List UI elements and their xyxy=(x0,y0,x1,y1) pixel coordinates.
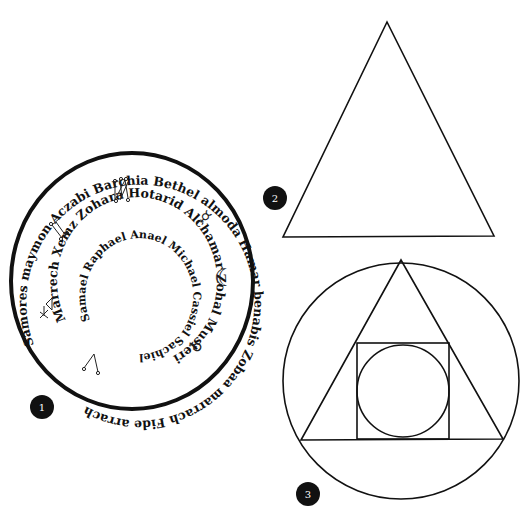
badge-1: 1 xyxy=(30,395,54,419)
moon-crescent-icon: ☾ xyxy=(214,264,236,292)
figure-3-nested-shapes: 3 xyxy=(283,260,519,506)
outer-circle xyxy=(283,263,519,499)
sigil-mars-icon xyxy=(82,354,99,375)
triangle-shape xyxy=(283,22,494,237)
badge-3-label: 3 xyxy=(305,489,311,500)
inner-circle xyxy=(357,345,449,437)
diagram-canvas: Samores maymon Aczabi Barchia Bethel alm… xyxy=(0,0,525,517)
figure-1-seal: Samores maymon Aczabi Barchia Bethel alm… xyxy=(11,153,266,433)
figure-2-triangle: 2 xyxy=(263,22,494,237)
badge-3: 3 xyxy=(296,482,320,506)
seal-inner-text: Samael Raphael Anael Michael Cassiel Sac… xyxy=(75,228,203,364)
badge-2-label: 2 xyxy=(272,193,278,204)
sigil-sun-icon xyxy=(40,298,52,318)
badge-1-label: 1 xyxy=(39,402,45,413)
badge-2: 2 xyxy=(263,186,287,210)
inner-ring-label: Samael Raphael Anael Michael Cassiel Sac… xyxy=(75,228,203,364)
